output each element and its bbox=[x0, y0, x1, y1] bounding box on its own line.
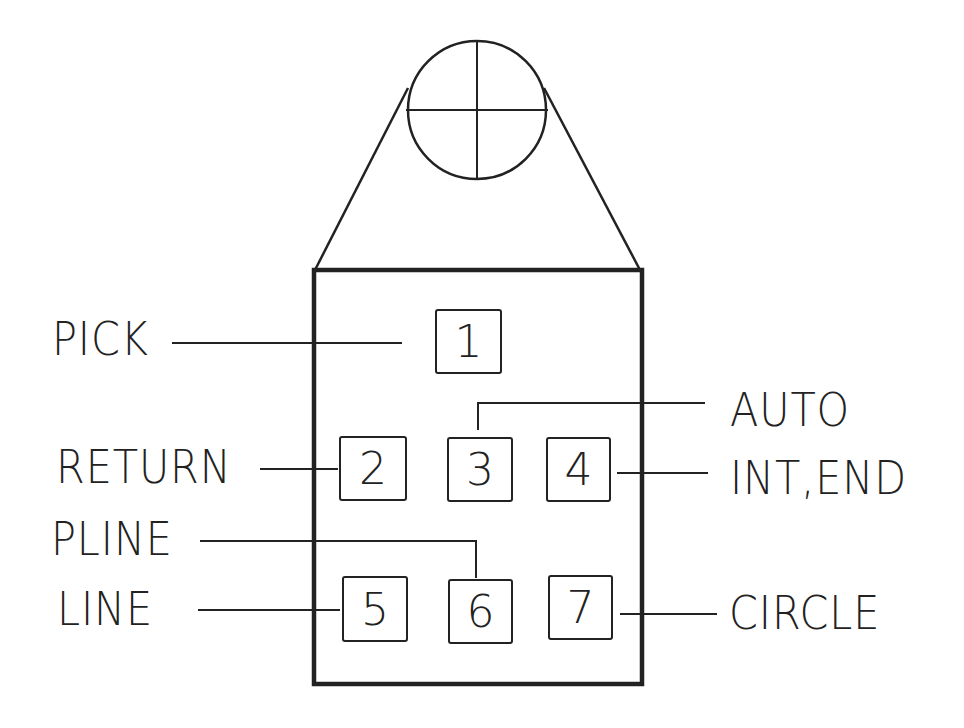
puck-button-6[interactable]: 6 bbox=[448, 579, 513, 644]
button-4-number: 4 bbox=[565, 444, 593, 495]
button-5-number: 5 bbox=[361, 584, 389, 635]
label-int-end: INT,END bbox=[730, 455, 907, 501]
button-3-number: 3 bbox=[466, 444, 494, 495]
button-7-number: 7 bbox=[567, 582, 595, 633]
button-1-number: 1 bbox=[455, 316, 483, 367]
leader-auto bbox=[478, 403, 705, 430]
puck-button-3[interactable]: 3 bbox=[447, 437, 513, 502]
puck-button-5[interactable]: 5 bbox=[342, 576, 408, 642]
puck-button-1[interactable]: 1 bbox=[435, 309, 502, 374]
label-pline: PLINE bbox=[51, 516, 173, 562]
button-6-number: 6 bbox=[467, 586, 495, 637]
leader-pline bbox=[200, 541, 476, 578]
label-return: RETURN bbox=[56, 444, 232, 490]
label-circle: CIRCLE bbox=[729, 590, 880, 636]
button-2-number: 2 bbox=[359, 443, 387, 494]
puck-button-2[interactable]: 2 bbox=[339, 436, 407, 501]
puck-button-4[interactable]: 4 bbox=[546, 437, 611, 502]
label-pick: PICK bbox=[52, 316, 149, 362]
label-line: LINE bbox=[57, 586, 153, 632]
right-tangent-line bbox=[544, 88, 640, 270]
label-auto: AUTO bbox=[730, 387, 850, 433]
leader-lines bbox=[172, 343, 717, 614]
left-tangent-line bbox=[315, 88, 408, 270]
puck-button-7[interactable]: 7 bbox=[548, 575, 613, 640]
